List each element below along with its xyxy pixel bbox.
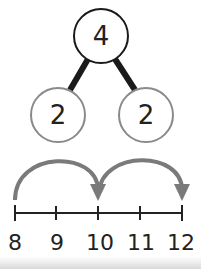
- part-node-right: 2: [119, 88, 173, 142]
- tick-label-9: 9: [50, 230, 64, 255]
- diagram-canvas: 4 2 2 8 9 1: [0, 0, 201, 269]
- connector-left: [70, 59, 88, 90]
- jump-arrow-10-to-12: [99, 160, 190, 201]
- tick-label-11: 11: [127, 230, 155, 255]
- part-node-left: 2: [31, 88, 85, 142]
- bottom-shadow-band: [0, 256, 201, 269]
- whole-node: 4: [74, 9, 128, 63]
- tick-label-10: 10: [86, 230, 114, 255]
- jump-arrow-8-to-10: [15, 161, 106, 201]
- part-value-left: 2: [50, 100, 67, 130]
- arrowhead-icon: [174, 184, 190, 201]
- jump-arc-2: [99, 160, 182, 192]
- whole-value: 4: [93, 21, 110, 51]
- jump-arc-1: [15, 161, 98, 200]
- number-line: 8 9 10 11 12: [8, 205, 195, 255]
- tick-label-12: 12: [167, 230, 195, 255]
- tick-label-8: 8: [8, 230, 22, 255]
- connector-right: [115, 59, 135, 90]
- part-value-right: 2: [138, 100, 155, 130]
- number-bond-and-number-line-figure: 4 2 2 8 9 1: [0, 0, 201, 269]
